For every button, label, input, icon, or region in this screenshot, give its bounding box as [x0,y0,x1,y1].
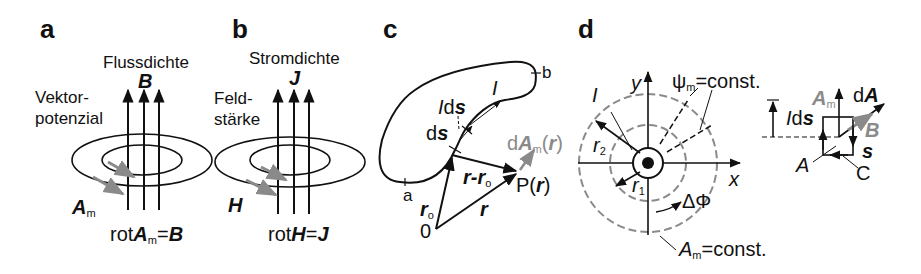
current-dot-icon [642,157,654,169]
psi-const-label: ψm=const. [672,70,760,93]
r0-label: ro [420,198,434,221]
electromagnetism-figure: a Flussdichte B Vektor- potenzial Am rot… [0,0,921,274]
inset-s-label: s [862,140,873,162]
x-axis-label: x [728,168,740,190]
panel-label-c: c [383,14,397,44]
conductor-loop [380,62,536,183]
panel-b: b Stromdichte J Feld- stärke H rotH=J [214,14,365,245]
field-lines-J [278,90,309,214]
Ids-pointer [458,116,459,130]
field-strength-label-1: Feld- [214,89,253,108]
y-axis-label: y [629,72,642,94]
point-b-label: b [542,63,551,82]
H-symbol: H [228,194,243,216]
dA-label: dAm(r) [507,132,563,155]
vector-potential-label-1: Vektor- [35,88,89,107]
panel-label-a: a [40,14,55,44]
point-P-label: P(r) [516,174,550,196]
H-arrow-inner [261,167,286,180]
inset-dA-label: dA [853,84,879,106]
panel-c: c a b I Ids ds ro r-ro r 0 P(r) dAm(r) [380,14,563,242]
Am-pointer [660,236,676,250]
inset-C-label: C [856,162,870,184]
H-arrow-outer [246,180,276,195]
equation-rotH-J: rotH=J [268,223,329,245]
current-I-label: I [492,77,498,99]
current-I-label: I [592,84,598,106]
vector-potential-arrow-outer [93,177,123,194]
origin-label: 0 [420,220,431,242]
field-strength-label-2: stärke [214,110,260,129]
delta-phi-label: ΔΦ [682,190,711,212]
ds-label: ds [426,122,448,144]
r2-label: r2 [593,134,606,157]
vector-potential-label-2: potenzial [35,109,103,128]
Am-const-label: Am=const. [678,238,767,261]
inset-Am-label: Am [811,87,836,110]
field-lines-B [128,90,159,210]
delta-phi-arrow [656,202,681,212]
panel-a: a Flussdichte B Vektor- potenzial Am rot… [35,14,212,246]
A-pointer [813,146,836,162]
field-symbol-J: J [289,67,301,89]
r-label: r [480,198,489,220]
inset-A-label: A [795,154,809,176]
A-m-symbol: Am [71,196,96,219]
stokes-inset: Ids Am dA B s A C [762,84,884,184]
Ids-label: Ids [438,96,466,118]
inset-Ids-label: Ids [786,107,814,129]
stokes-area-rect [823,117,853,155]
r-minus-r0-label: r-ro [463,166,491,189]
inset-B-label: B [865,119,879,141]
panel-label-b: b [232,14,248,44]
current-density-title: Stromdichte [249,49,340,68]
psi-line-1 [660,100,688,144]
psi-pointer-2 [700,90,712,130]
psi-line-2 [667,125,712,152]
point-a-label: a [403,186,413,205]
field-symbol-B: B [138,70,152,92]
equation-rotA-B: rotAm=B [110,223,183,246]
panel-d: d y x I r2 r1 ψm=const. ΔΦ Am=const. [578,14,884,261]
current-direction-arrow [470,102,500,125]
panel-label-d: d [578,14,594,44]
inner-loop-a [102,145,182,175]
inner-loop-b [250,145,330,175]
